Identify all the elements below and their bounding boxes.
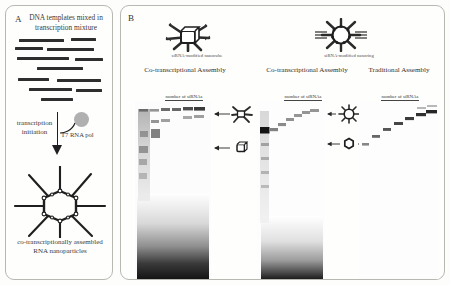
panel-b-letter: B <box>128 13 134 23</box>
dna-template-bar <box>15 47 43 50</box>
panel-b: B <box>120 5 445 280</box>
transcription-step: transcription initiation T7 RNA pol <box>13 110 107 166</box>
dna-template-bar <box>41 98 73 101</box>
dna-template-field <box>13 37 107 109</box>
siRNA-modified-nanoring-icon <box>311 18 371 52</box>
dna-template-bar <box>29 88 72 91</box>
nanocube-annotation-cluster <box>214 106 256 168</box>
panel-a-caption: co-transcriptionally assembled RNA nanop… <box>13 238 107 255</box>
figure-root: A DNA templates mixed in transcription m… <box>0 0 450 285</box>
dna-template-bar <box>57 79 101 82</box>
transcription-initiation-label: transcription initiation <box>12 119 57 137</box>
assembly-header-cotranscriptional-ring: Co-transcriptional Assembly <box>247 66 367 74</box>
gel-image-nanoring-cotranscriptional <box>257 101 325 279</box>
panel-a-letter: A <box>15 14 22 24</box>
dna-template-bar <box>71 38 96 41</box>
t7-rna-polymerase-label: T7 RNA pol <box>61 131 107 139</box>
down-arrow-icon <box>52 145 62 155</box>
dna-template-bar <box>47 48 94 51</box>
gel-1-exposure <box>257 101 325 279</box>
panel-a: A DNA templates mixed in transcription m… <box>5 5 113 280</box>
dna-template-bar <box>17 57 69 60</box>
gel-2-axis-label: number of siRNAs <box>381 94 420 101</box>
gel-image-nanoring-traditional <box>359 101 439 279</box>
gel-2-exposure <box>359 101 439 279</box>
siRNA-modified-nanocube-caption: siRNA-modified nanocube <box>137 53 257 58</box>
gel-0-axis-label: number of siRNAs <box>165 94 204 101</box>
gel-image-nanocube-cotranscriptional <box>135 101 211 279</box>
assembly-header-traditional: Traditional Assembly <box>353 66 445 74</box>
dna-template-bar <box>19 39 64 42</box>
dna-template-bar <box>75 58 103 61</box>
gel-0-exposure <box>135 101 211 279</box>
gel-1-axis-label: number of siRNAs <box>284 94 323 101</box>
rna-nanoparticle-diagram <box>13 166 107 238</box>
dna-template-bar <box>18 78 49 81</box>
assembly-header-cotranscriptional-cube: Co-transcriptional Assembly <box>122 66 248 74</box>
siRNA-modified-nanoring-caption: siRNA-modified nanoring <box>289 53 409 58</box>
hexagon-nanoring-icon <box>13 166 107 238</box>
dna-template-bar <box>37 67 83 70</box>
siRNA-modified-nanocube-icon <box>161 22 215 52</box>
dna-template-bar <box>76 89 102 92</box>
panel-a-title: DNA templates mixed in transcription mix… <box>23 13 109 32</box>
